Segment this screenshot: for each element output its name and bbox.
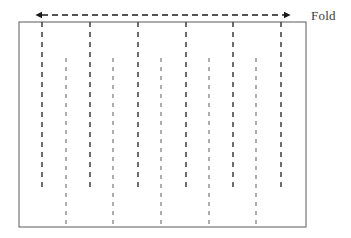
- paper-sheet-rectangle: [19, 22, 306, 227]
- fold-diagram-canvas: [0, 0, 351, 238]
- fold-diagram-figure: Fold: [0, 0, 351, 238]
- fold-label: Fold: [311, 8, 336, 24]
